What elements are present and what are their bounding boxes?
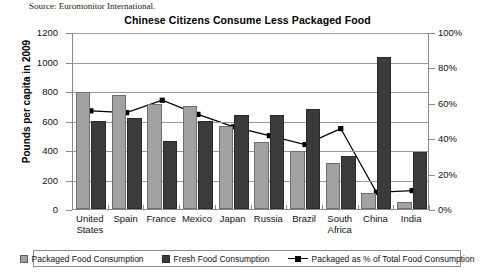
y-axis-tick-left: 0 [0, 205, 58, 215]
legend-label: Packaged as % of Total Food Consumption [312, 254, 475, 264]
bar-fresh [413, 152, 428, 209]
bar-fresh [377, 57, 392, 209]
x-axis-label: France [143, 214, 179, 225]
chart-title: Chinese Citizens Consume Less Packaged F… [0, 14, 495, 26]
x-axis-label: Mexico [179, 214, 215, 225]
bar-packaged [183, 106, 198, 209]
bar-packaged [326, 163, 341, 209]
bar-fresh [198, 121, 213, 209]
bar-packaged [76, 92, 91, 209]
bar-group [216, 33, 252, 209]
x-axis-tickmark [251, 205, 252, 210]
y-axis-tick-left: 800 [0, 87, 58, 97]
y-axis-tick-right: 40% [438, 134, 490, 144]
x-axis-tickmark [393, 205, 394, 210]
y-axis-tickmark-left [66, 181, 72, 182]
y-axis-tickmark-right [429, 139, 435, 140]
x-axis-tickmark [358, 205, 359, 210]
bar-group [180, 33, 216, 209]
x-axis-label: South Africa [322, 214, 358, 235]
legend-fresh-icon [162, 255, 170, 263]
y-axis-tick-right: 0% [438, 205, 490, 215]
y-axis-tickmark-left [66, 151, 72, 152]
bar-packaged [361, 193, 376, 209]
bar-packaged [397, 202, 412, 209]
bar-fresh [234, 115, 249, 209]
y-axis-tick-left: 200 [0, 176, 58, 186]
y-axis-tick-left: 1200 [0, 28, 58, 38]
x-axis-tickmark [286, 205, 287, 210]
x-axis-tickmark [108, 205, 109, 210]
x-axis-label: India [393, 214, 429, 225]
x-axis-label: Spain [108, 214, 144, 225]
legend-line-icon [288, 255, 308, 263]
source-note: Source: Euromonitor International. [29, 1, 155, 11]
x-axis-label: China [358, 214, 394, 225]
x-axis-tickmark [322, 205, 323, 210]
bar-fresh [306, 109, 321, 209]
bar-packaged [112, 95, 127, 209]
x-axis-tickmark [179, 205, 180, 210]
y-axis-tickmark-left [66, 63, 72, 64]
x-axis-tickmark [143, 205, 144, 210]
x-axis-tickmark [72, 205, 73, 210]
bar-group [287, 33, 323, 209]
y-axis-tick-right: 80% [438, 63, 490, 73]
bar-group [359, 33, 395, 209]
bar-fresh [341, 156, 356, 209]
y-axis-tick-right: 60% [438, 99, 490, 109]
y-axis-tick-left: 1000 [0, 58, 58, 68]
bar-fresh [270, 115, 285, 209]
bar-packaged [290, 151, 305, 209]
bar-fresh [163, 141, 178, 209]
bar-group [323, 33, 359, 209]
y-axis-tickmark-left [66, 92, 72, 93]
x-axis-label: Russia [251, 214, 287, 225]
y-axis-tick-left: 600 [0, 117, 58, 127]
bar-group [109, 33, 145, 209]
y-axis-tickmark-right [429, 210, 435, 211]
x-axis-label: Brazil [286, 214, 322, 225]
chart-area: Pounds per capita in 2009 02004006008001… [0, 28, 495, 244]
y-axis-tickmark-right [429, 175, 435, 176]
bar-fresh [127, 118, 142, 209]
legend-pkg-icon [20, 255, 28, 263]
y-axis-tick-left: 400 [0, 146, 58, 156]
plot-area [72, 33, 429, 210]
chart-legend: Packaged Food ConsumptionFresh Food Cons… [33, 250, 461, 267]
x-axis-tickmark [215, 205, 216, 210]
bar-packaged [147, 104, 162, 209]
y-axis-tickmark-right [429, 33, 435, 34]
y-axis-tickmark-left [66, 210, 72, 211]
x-axis-label: United States [72, 214, 108, 235]
bar-group [144, 33, 180, 209]
legend-item: Packaged Food Consumption [20, 254, 144, 264]
y-axis-tickmark-right [429, 68, 435, 69]
y-axis-tick-right: 20% [438, 170, 490, 180]
legend-item: Packaged as % of Total Food Consumption [288, 254, 475, 264]
y-axis-tickmark-right [429, 104, 435, 105]
legend-label: Fresh Food Consumption [174, 254, 270, 264]
legend-label: Packaged Food Consumption [32, 254, 144, 264]
y-axis-tick-right: 100% [438, 28, 490, 38]
y-axis-tickmark-left [66, 122, 72, 123]
bar-fresh [91, 121, 106, 210]
bar-packaged [219, 126, 234, 209]
x-axis-label: Japan [215, 214, 251, 225]
bar-packaged [254, 142, 269, 209]
bar-group [394, 33, 430, 209]
bar-group [252, 33, 288, 209]
legend-item: Fresh Food Consumption [162, 254, 270, 264]
y-axis-tickmark-left [66, 33, 72, 34]
x-axis-tickmark [429, 205, 430, 210]
bar-group [73, 33, 109, 209]
